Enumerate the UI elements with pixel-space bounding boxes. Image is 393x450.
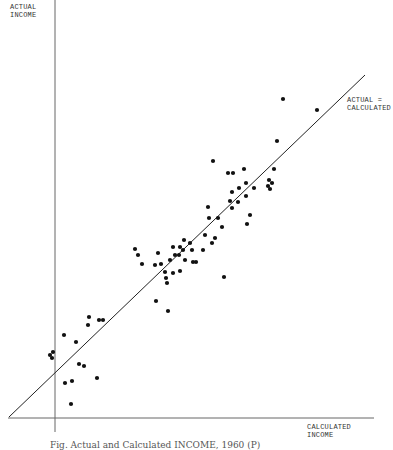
data-point — [164, 276, 168, 280]
data-point — [153, 263, 157, 267]
data-point — [236, 200, 240, 204]
data-point — [231, 171, 235, 175]
data-point — [230, 190, 234, 194]
data-point — [97, 318, 101, 322]
data-point — [77, 362, 81, 366]
data-point — [237, 186, 241, 190]
reference-line-label: ACTUAL =CALCULATED — [347, 96, 391, 112]
data-point — [244, 181, 248, 185]
data-point — [178, 269, 182, 273]
data-point — [188, 241, 192, 245]
data-point — [165, 281, 169, 285]
y-axis-label-line1: ACTUAL — [10, 3, 36, 11]
data-point — [159, 262, 163, 266]
data-point — [154, 299, 158, 303]
data-point — [190, 248, 194, 252]
data-point — [242, 167, 246, 171]
figure-caption: Fig. Actual and Calculated INCOME, 1960 … — [50, 440, 260, 450]
data-point — [281, 97, 285, 101]
data-point — [201, 248, 205, 252]
data-point — [177, 253, 181, 257]
data-point — [268, 187, 272, 191]
data-point — [206, 205, 210, 209]
data-point — [272, 167, 276, 171]
data-point — [171, 271, 175, 275]
data-point — [220, 225, 224, 229]
data-point — [244, 194, 248, 198]
data-points — [48, 97, 319, 406]
data-point — [210, 241, 214, 245]
data-point — [168, 258, 172, 262]
data-point — [51, 350, 55, 354]
data-point — [95, 376, 99, 380]
data-point — [248, 213, 252, 217]
data-point — [173, 253, 177, 257]
data-point — [183, 258, 187, 262]
data-point — [230, 206, 234, 210]
data-point — [275, 139, 279, 143]
data-point — [213, 236, 217, 240]
data-point — [74, 340, 78, 344]
data-point — [245, 222, 249, 226]
data-point — [69, 402, 73, 406]
data-point — [267, 178, 271, 182]
y-axis-label-line2: INCOME — [10, 11, 36, 19]
data-point — [228, 199, 232, 203]
data-point — [315, 108, 319, 112]
x-axis-label-line1: CALCULATED — [307, 423, 351, 431]
data-point — [163, 270, 167, 274]
y-axis-label: ACTUALINCOME — [10, 3, 36, 19]
data-point — [70, 379, 74, 383]
data-point — [191, 260, 195, 264]
data-point — [181, 248, 185, 252]
data-point — [136, 253, 140, 257]
data-point — [211, 159, 215, 163]
data-point — [140, 262, 144, 266]
data-point — [226, 171, 230, 175]
data-point — [178, 245, 182, 249]
data-point — [166, 309, 170, 313]
data-point — [62, 333, 66, 337]
data-point — [133, 247, 137, 251]
data-point — [270, 181, 274, 185]
data-point — [156, 251, 160, 255]
data-point — [203, 233, 207, 237]
data-point — [182, 238, 186, 242]
reference-line-label-line1: ACTUAL = — [347, 96, 382, 104]
data-point — [82, 364, 86, 368]
data-point — [101, 318, 105, 322]
data-point — [87, 315, 91, 319]
reference-line-actual-equals-calculated — [9, 75, 365, 417]
data-point — [207, 216, 211, 220]
data-point — [222, 275, 226, 279]
data-point — [86, 323, 90, 327]
x-axis-label-line2: INCOME — [307, 431, 333, 439]
reference-line-label-line2: CALCULATED — [347, 104, 391, 112]
x-axis-label: CALCULATEDINCOME — [307, 423, 351, 439]
data-point — [171, 245, 175, 249]
data-point — [63, 381, 67, 385]
data-point — [50, 356, 54, 360]
data-point — [252, 186, 256, 190]
data-point — [216, 216, 220, 220]
